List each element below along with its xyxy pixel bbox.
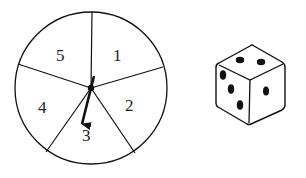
- diagram-canvas: 1 2 3 4 5: [0, 0, 306, 178]
- die-pip: [220, 70, 226, 80]
- die-pip: [257, 59, 265, 65]
- section-label-4: 4: [38, 98, 47, 117]
- die-pip: [228, 84, 234, 94]
- die-pip: [237, 100, 243, 110]
- section-label-3: 3: [82, 126, 91, 145]
- spinner: 1 2 3 4 5: [15, 12, 167, 164]
- section-label-5: 5: [56, 46, 65, 65]
- die-pip: [263, 86, 269, 95]
- die-pip: [236, 57, 244, 63]
- die: [216, 45, 285, 125]
- section-label-1: 1: [113, 46, 122, 65]
- section-label-2: 2: [125, 96, 134, 115]
